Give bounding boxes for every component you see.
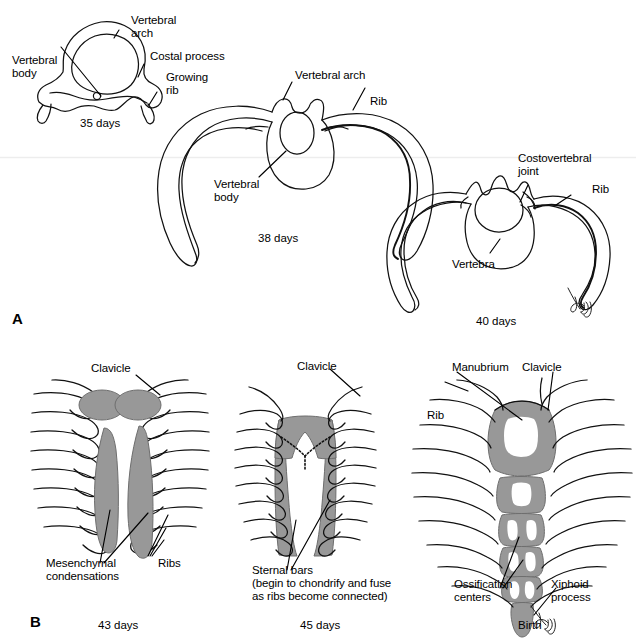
panel-letter-b: B	[30, 613, 41, 630]
ossification-center-manubrium	[504, 417, 538, 457]
vertebra-40-days-drawing	[387, 176, 610, 317]
ossification-center-sternebra-2-left	[507, 520, 517, 540]
label-sternal-bars-line3: as ribs become connected)	[252, 590, 388, 603]
label-costovertebral-joint-line2: joint	[518, 165, 539, 178]
neural-canal-38	[280, 112, 314, 154]
label-ossification-line2: centers	[454, 591, 491, 604]
clavicle-right-birth	[541, 380, 587, 410]
label-xiphoid-line1: Xiphoid	[551, 578, 589, 591]
ossification-center-sternebra-2-right	[526, 520, 536, 540]
label-vertebra-40: Vertebra	[452, 258, 495, 271]
label-xiphoid-line2: process	[551, 591, 591, 604]
label-rib-38: Rib	[370, 95, 387, 108]
label-manubrium-birth: Manubrium	[452, 361, 509, 374]
label-vertebral-arch-35-line1: Vertebral	[131, 14, 176, 27]
label-sternal-bars-line2: (begin to chondrify and fuse	[252, 577, 391, 590]
panel-letter-a: A	[12, 310, 23, 327]
sternum-43-days-drawing	[31, 380, 209, 558]
caption-birth: Birth	[518, 619, 542, 631]
sternebra-2-birth	[499, 514, 545, 547]
sternal-condensation-right-43	[128, 426, 153, 558]
label-costovertebral-joint-line1: Costovertebral	[518, 152, 591, 165]
ossification-center-sternebra-1	[512, 483, 532, 507]
caption-35-days: 35 days	[80, 117, 120, 129]
label-clavicle-birth: Clavicle	[522, 361, 561, 374]
label-growing-rib-line1: Growing	[166, 71, 208, 84]
sternal-plate-top-45	[275, 416, 336, 459]
anatomy-figure: .ink{fill:none;stroke:#111;stroke-width:…	[0, 0, 636, 638]
sternum-birth-drawing	[412, 378, 632, 637]
clavicle-left-birth	[457, 380, 503, 410]
label-rib-birth: Rib	[427, 409, 444, 422]
label-vertebral-body-38-line2: body	[214, 191, 239, 204]
ossification-center-sternebra-3-right	[525, 552, 535, 571]
label-vertebral-body-38-line1: Vertebral	[214, 178, 259, 191]
label-clavicle-43: Clavicle	[91, 362, 130, 375]
label-vertebral-body-35-line1: Vertebral	[12, 54, 57, 67]
leaders-38-days	[259, 82, 365, 177]
caption-43-days: 43 days	[98, 619, 138, 631]
label-growing-rib-line2: rib	[166, 84, 178, 97]
label-clavicle-45: Clavicle	[297, 360, 336, 373]
ossification-center-sternebra-4-right	[525, 581, 535, 599]
label-rib-40: Rib	[592, 183, 609, 196]
caption-40-days: 40 days	[476, 315, 516, 327]
label-mesenchymal-line2: condensations	[46, 570, 119, 583]
sternum-45-days-drawing	[235, 387, 376, 556]
illustrator-signature-40days	[568, 288, 591, 317]
caption-45-days: 45 days	[300, 619, 340, 631]
label-vertebral-body-35-line2: body	[12, 67, 37, 80]
label-vertebral-arch-35-line2: arch	[131, 27, 153, 40]
label-costal-process-35: Costal process	[150, 50, 225, 63]
label-ribs-43: Ribs	[158, 557, 181, 570]
label-ossification-line1: Ossification	[454, 578, 512, 591]
vertebral-centrum-40	[475, 188, 523, 232]
label-vertebral-arch-38: Vertebral arch	[295, 69, 365, 82]
label-sternal-bars-line1: Sternal bars	[252, 564, 313, 577]
caption-38-days: 38 days	[258, 232, 298, 244]
figure-artwork: .ink{fill:none;stroke:#111;stroke-width:…	[0, 0, 636, 638]
leaders-40-days	[490, 185, 571, 253]
clavicle-condensation-right-43	[115, 390, 161, 420]
label-mesenchymal-line1: Mesenchymal	[46, 557, 116, 570]
